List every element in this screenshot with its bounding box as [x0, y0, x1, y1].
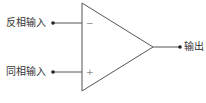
inverting-input-label: 反相输入 — [6, 17, 46, 29]
inverting-input-node — [51, 21, 55, 25]
minus-sign: − — [86, 17, 94, 29]
op-amp-diagram — [0, 0, 206, 103]
plus-sign: + — [86, 66, 94, 78]
output-label: 输出 — [184, 41, 204, 53]
output-node — [178, 45, 182, 49]
non-inverting-input-label: 同相输入 — [6, 66, 46, 78]
non-inverting-input-node — [51, 70, 55, 74]
